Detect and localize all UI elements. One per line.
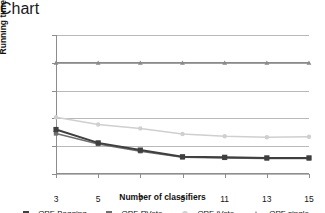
data-point-marker [307,135,311,139]
x-axis-tick [309,174,310,178]
plot-area: 1.001.251.501.752.002.25 3579111315 [56,35,309,174]
x-axis-title: Number of classifiers [0,192,325,202]
x-axis-tick [56,174,57,178]
x-axis-tick [267,174,268,178]
data-point-marker [138,147,143,152]
data-point-marker [265,135,269,139]
data-point-marker [222,134,226,138]
legend-label: OPF-Bagging [38,209,86,213]
data-point-marker [96,122,100,126]
legend-swatch-icon [247,209,266,213]
data-point-marker [264,155,269,160]
y-axis-title: Running time (sec.) [0,0,8,70]
data-point-marker [222,155,227,160]
series-opf-single [54,60,312,64]
chart-legend: OPF-BaggingOPF-RVoteOPF-iVoteOPF single [0,209,325,213]
legend-label: OPF single [269,209,309,213]
legend-label: OPF-iVote [197,209,234,213]
legend-label: OPF-RVote [122,209,163,213]
series-opf-ivote [54,115,311,139]
data-point-marker [306,155,311,160]
data-point-marker [180,154,185,159]
legend-item-opf-single[interactable]: OPF single [247,209,309,213]
data-series-layer [56,35,309,174]
legend-item-opf-rvote[interactable]: OPF-RVote [100,209,163,213]
x-axis-tick [140,174,141,178]
data-point-marker [54,115,58,119]
data-point-marker [96,140,101,145]
x-axis-tick [98,174,99,178]
data-point-marker [53,127,58,132]
x-axis-tick [183,174,184,178]
legend-item-opf-bagging[interactable]: OPF-Bagging [16,209,86,213]
data-point-marker [180,132,184,136]
x-axis-tick [225,174,226,178]
data-point-marker [138,126,142,130]
legend-swatch-icon [175,209,194,213]
chart-container: Running time (sec.) 1.001.251.501.752.00… [0,18,325,213]
legend-swatch-icon [100,209,119,213]
legend-item-opf-ivote[interactable]: OPF-iVote [175,209,234,213]
legend-swatch-icon [16,209,35,213]
